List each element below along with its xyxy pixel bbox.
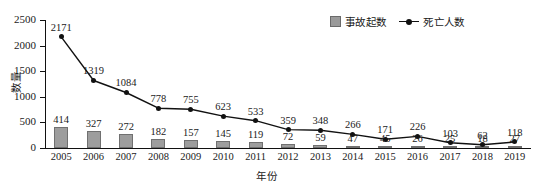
- bar-value-label: 327: [77, 119, 111, 130]
- x-tick-label: 2011: [239, 151, 273, 162]
- line-point[interactable]: [156, 106, 161, 111]
- x-tick-label: 2014: [336, 151, 370, 162]
- line-value-label: 755: [174, 95, 208, 106]
- x-tick-label: 2016: [401, 151, 435, 162]
- bar-value-label: 157: [174, 128, 208, 139]
- chart-container: 事故起数 死亡人数 数量 年份 05001000150020002500 200…: [0, 0, 533, 187]
- line-value-label: 171: [368, 125, 402, 136]
- x-tick-label: 2018: [465, 151, 499, 162]
- y-tick-label: 2000: [0, 40, 36, 51]
- line-value-label: 533: [239, 107, 273, 118]
- x-axis-title: 年份: [0, 168, 533, 183]
- x-axis-line: [45, 148, 531, 149]
- bar-value-label: 182: [141, 127, 175, 138]
- line-value-label: 623: [206, 102, 240, 113]
- bar-value-label: 59: [303, 133, 337, 144]
- bar-value-label: 26: [401, 134, 435, 145]
- line-value-label: 1319: [77, 66, 111, 77]
- bar-value-label: 47: [336, 134, 370, 145]
- x-tick-label: 2010: [206, 151, 240, 162]
- y-tick-label: 1000: [0, 91, 36, 102]
- x-tick-label: 2008: [141, 151, 175, 162]
- line-value-label: 118: [498, 128, 532, 139]
- y-tick-mark: [40, 148, 45, 149]
- line-value-label: 2171: [44, 23, 78, 34]
- bar-value-label: 72: [271, 132, 305, 143]
- y-tick-label: 500: [0, 116, 36, 127]
- x-tick-label: 2017: [433, 151, 467, 162]
- line-value-label: 226: [401, 122, 435, 133]
- y-tick-label: 0: [0, 142, 36, 153]
- bar-value-label: 414: [44, 115, 78, 126]
- bar-value-label: 272: [109, 122, 143, 133]
- x-tick-label: 2006: [77, 151, 111, 162]
- line-value-label: 359: [271, 116, 305, 127]
- plot-area: 4143272721821571451197259474526251827 21…: [45, 20, 531, 148]
- line-value-label: 778: [141, 94, 175, 105]
- x-tick-label: 2019: [498, 151, 532, 162]
- line-point[interactable]: [124, 90, 129, 95]
- line-value-label: 1084: [109, 78, 143, 89]
- line-value-label: 348: [303, 116, 337, 127]
- y-tick-label: 1500: [0, 65, 36, 76]
- line-value-label: 62: [465, 131, 499, 142]
- bar-value-label: 145: [206, 129, 240, 140]
- bar-value-label: 119: [239, 130, 273, 141]
- line-value-label: 266: [336, 120, 370, 131]
- x-tick-label: 2005: [44, 151, 78, 162]
- x-tick-label: 2009: [174, 151, 208, 162]
- x-tick-label: 2013: [303, 151, 337, 162]
- x-tick-label: 2012: [271, 151, 305, 162]
- x-tick-label: 2015: [368, 151, 402, 162]
- line-value-label: 103: [433, 129, 467, 140]
- x-tick-label: 2007: [109, 151, 143, 162]
- line-point[interactable]: [221, 114, 226, 119]
- y-tick-label: 2500: [0, 14, 36, 25]
